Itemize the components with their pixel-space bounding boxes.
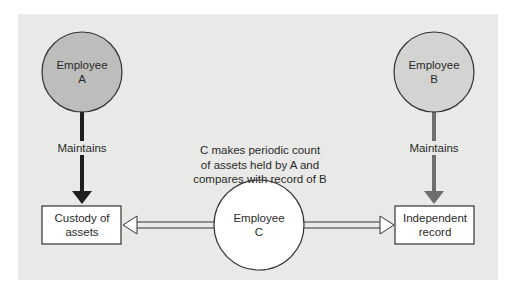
arrow-c-to-custody	[123, 216, 214, 234]
description-line3: compares with record of B	[160, 172, 360, 187]
employee-b-label-line2: B	[389, 72, 479, 86]
employee-a-label-line1: Employee	[37, 58, 127, 72]
description-text: C makes periodic count of assets held by…	[160, 143, 360, 187]
description-line2: of assets held by A and	[160, 158, 360, 173]
employee-b-label: Employee B	[389, 58, 479, 86]
employee-c-label-line2: C	[214, 225, 304, 239]
custody-label-line1: Custody of	[42, 211, 122, 225]
description-line1: C makes periodic count	[160, 143, 360, 158]
custody-of-assets-label: Custody of assets	[42, 211, 122, 239]
custody-label-line2: assets	[42, 225, 122, 239]
employee-c-label-line1: Employee	[214, 211, 304, 225]
employee-a-label: Employee A	[37, 58, 127, 86]
independent-record-label: Independent record	[395, 211, 475, 239]
employee-b-label-line1: Employee	[389, 58, 479, 72]
arrow-c-to-record	[304, 216, 394, 234]
arrow-a-to-custody	[72, 111, 92, 204]
arrow-b-to-record	[424, 111, 444, 204]
record-label-line2: record	[395, 225, 475, 239]
employee-c-label: Employee C	[214, 211, 304, 239]
record-label-line1: Independent	[395, 211, 475, 225]
employee-a-label-line2: A	[37, 72, 127, 86]
maintains-label-a: Maintains	[42, 141, 122, 155]
maintains-label-b: Maintains	[394, 141, 474, 155]
